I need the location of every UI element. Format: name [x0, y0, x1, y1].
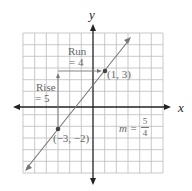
- run-value: = 4: [69, 57, 83, 68]
- line-arrow-upper-icon: [124, 37, 131, 44]
- slope-fraction: 5 4: [141, 117, 149, 138]
- rise-value: = 5: [35, 93, 49, 104]
- x-axis-label: x: [178, 100, 184, 116]
- y-axis-arrow-up-icon: [90, 24, 96, 31]
- run-arrow-icon: [97, 69, 102, 73]
- x-axis-arrow-right-icon: [164, 104, 171, 110]
- y-axis-label: y: [89, 7, 95, 23]
- x-axis-arrow-left-icon: [13, 104, 20, 110]
- rise-arrow-icon: [56, 73, 60, 78]
- point-label-neg3-neg2: (−3, −2): [53, 133, 89, 144]
- slope-numerator: 5: [141, 117, 149, 126]
- slope-label: m =: [119, 123, 137, 134]
- point-label-1-3: (1, 3): [107, 69, 131, 80]
- slope-denominator: 4: [141, 129, 149, 138]
- coordinate-plane: [0, 0, 192, 191]
- line-arrow-lower-icon: [25, 164, 32, 171]
- point-neg3-neg2: [56, 127, 61, 132]
- y-axis-arrow-down-icon: [90, 178, 96, 185]
